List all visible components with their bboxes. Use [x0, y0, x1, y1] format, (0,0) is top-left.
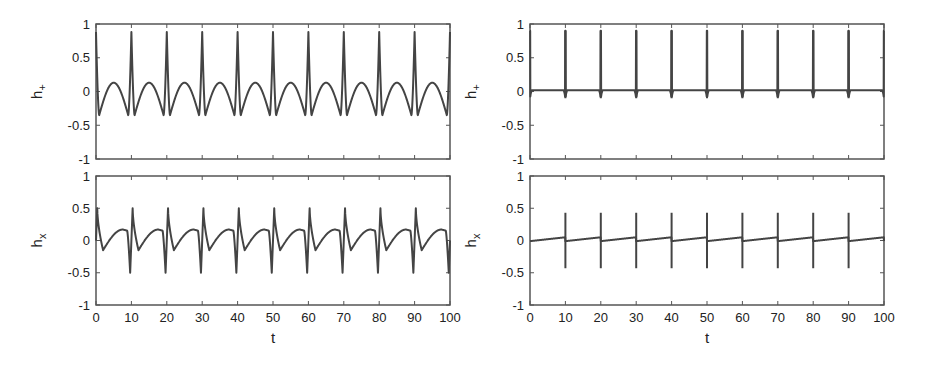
y-tick-label: -0.5 — [68, 265, 90, 280]
x-tick-label: 30 — [629, 310, 643, 325]
y-tick-label: 1 — [517, 17, 524, 32]
x-tick-label: 90 — [841, 310, 855, 325]
y-tick-label: 0 — [83, 84, 90, 99]
y-tick-label: -0.5 — [502, 118, 524, 133]
x-tick-label: 30 — [195, 310, 209, 325]
x-tick-label: 50 — [266, 310, 280, 325]
x-tick-label: 60 — [301, 310, 315, 325]
x-tick-label: 60 — [735, 310, 749, 325]
y-tick-label: 1 — [517, 169, 524, 184]
y-axis-label: h+ — [462, 84, 482, 99]
x-tick-label: 50 — [700, 310, 714, 325]
x-tick-label: 80 — [372, 310, 386, 325]
x-axis-label: t — [705, 329, 710, 346]
y-tick-label: -0.5 — [68, 118, 90, 133]
x-tick-label: 40 — [664, 310, 678, 325]
y-tick-label: 0 — [83, 233, 90, 248]
y-tick-label: 0.5 — [72, 201, 90, 216]
y-axis-label: h+ — [28, 84, 48, 99]
plot-panel-bottom-right: 10.50-0.5-10102030405060708090100thx — [462, 169, 895, 347]
x-tick-label: 100 — [439, 310, 461, 325]
x-tick-label: 70 — [771, 310, 785, 325]
x-tick-label: 0 — [526, 310, 533, 325]
y-axis-label: hx — [28, 233, 48, 247]
y-axis-label: hx — [462, 233, 482, 247]
y-tick-label: -1 — [78, 298, 90, 313]
figure: 10.50-0.5-1h+10.50-0.5-10102030405060708… — [0, 0, 932, 368]
series-line-h+ — [96, 32, 450, 115]
y-tick-label: 1 — [83, 169, 90, 184]
y-tick-label: 0 — [517, 84, 524, 99]
x-axis-label: t — [271, 329, 276, 346]
plot-panel-bottom-left: 10.50-0.5-10102030405060708090100thx — [28, 169, 461, 347]
x-tick-label: 0 — [92, 310, 99, 325]
y-tick-label: 1 — [83, 17, 90, 32]
x-tick-label: 90 — [407, 310, 421, 325]
x-tick-label: 10 — [558, 310, 572, 325]
x-tick-label: 40 — [230, 310, 244, 325]
series-line-hx — [96, 208, 450, 273]
x-tick-label: 20 — [160, 310, 174, 325]
y-tick-label: 0 — [517, 233, 524, 248]
y-tick-label: 0.5 — [506, 50, 524, 65]
y-tick-label: -1 — [512, 152, 524, 167]
y-tick-label: -1 — [78, 152, 90, 167]
x-tick-label: 20 — [594, 310, 608, 325]
x-tick-label: 10 — [124, 310, 138, 325]
y-tick-label: 0.5 — [506, 201, 524, 216]
plot-panel-top-left: 10.50-0.5-1h+ — [28, 17, 450, 167]
x-tick-label: 70 — [337, 310, 351, 325]
y-tick-label: -1 — [512, 298, 524, 313]
x-tick-label: 100 — [873, 310, 895, 325]
y-tick-label: -0.5 — [502, 265, 524, 280]
y-tick-label: 0.5 — [72, 50, 90, 65]
plot-panel-top-right: 10.50-0.5-1h+ — [462, 17, 884, 167]
x-tick-label: 80 — [806, 310, 820, 325]
